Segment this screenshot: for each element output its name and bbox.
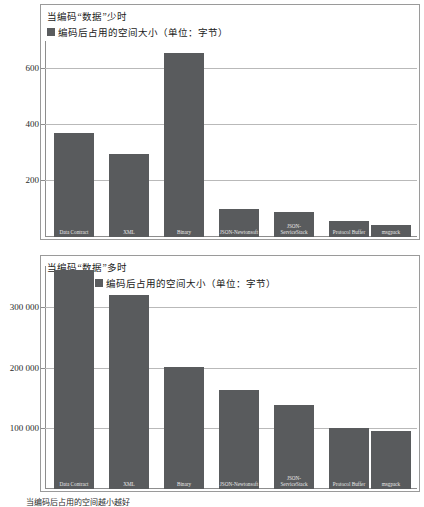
bar-binary-top[interactable]: Binary: [164, 53, 204, 237]
bar-json-newtonsoft-top[interactable]: JSON-Newtonsoft: [219, 209, 259, 237]
bar-data-contract-bottom[interactable]: Data Contract: [54, 270, 94, 489]
bar-data-contract-top[interactable]: Data Contract: [54, 133, 94, 237]
ytick-label-200000-bottom: 200 000: [10, 363, 39, 373]
legend-label-top: 编码后占用的空间大小（单位：字节）: [58, 25, 228, 39]
bar-xml-top[interactable]: XML: [109, 154, 149, 237]
ytick-label-200-top: 200: [26, 175, 40, 185]
bars-layer-bottom: Data Contract XML Binary JSON-Newtonsoft…: [45, 266, 417, 489]
chart-title-top: 当编码“数据”少时: [47, 9, 127, 23]
bar-xml-bottom[interactable]: XML: [109, 295, 149, 489]
legend-swatch-icon: [47, 28, 55, 36]
bar-label-protocol-buffer-bottom: Protocol Buffer: [329, 481, 369, 489]
bar-binary-bottom[interactable]: Binary: [164, 367, 204, 489]
bar-label-data-contract-top: Data Contract: [54, 229, 94, 237]
ytick-label-300000-bottom: 300 000: [10, 302, 39, 312]
plot-area-bottom: 300 000 200 000 100 000 Data Contract XM…: [45, 266, 417, 489]
bar-label-protocol-buffer-top: Protocol Buffer: [329, 229, 369, 237]
bar-json-newtonsoft-bottom[interactable]: JSON-Newtonsoft: [219, 390, 259, 489]
figure-caption: 当编码后占用的空间越小越好: [26, 496, 130, 507]
bars-layer-top: Data Contract XML Binary JSON-Newtonsoft…: [45, 41, 417, 237]
bar-label-json-servicestack-bottom: JSON-ServiceStack: [274, 475, 314, 489]
bar-label-xml-top: XML: [109, 229, 149, 237]
bar-label-msgpack-bottom: msgpack: [371, 481, 411, 489]
ytick-label-400-top: 400: [26, 119, 40, 129]
plot-area-top: 600 400 200 Data Contract XML Binary: [45, 41, 417, 237]
bar-label-json-servicestack-top: JSON-ServiceStack: [274, 223, 314, 237]
bar-msgpack-bottom[interactable]: msgpack: [371, 431, 411, 489]
bar-label-json-newtonsoft-top: JSON-Newtonsoft: [219, 229, 259, 237]
bar-label-binary-bottom: Binary: [164, 481, 204, 489]
bar-label-data-contract-bottom: Data Contract: [54, 481, 94, 489]
chart-small-data: 当编码“数据”少时 编码后占用的空间大小（单位：字节） 600 400 200: [0, 0, 424, 245]
chart-large-data: 当编码“数据”多时 编码后占用的空间大小（单位：字节） 300 000 200 …: [0, 255, 424, 503]
bar-json-servicestack-bottom[interactable]: JSON-ServiceStack: [274, 405, 314, 489]
bar-label-xml-bottom: XML: [109, 481, 149, 489]
ytick-label-100000-bottom: 100 000: [10, 423, 39, 433]
bar-label-json-newtonsoft-bottom: JSON-Newtonsoft: [219, 481, 259, 489]
bar-label-msgpack-top: msgpack: [371, 229, 411, 237]
ytick-label-600-top: 600: [26, 63, 40, 73]
bar-label-binary-top: Binary: [164, 229, 204, 237]
bar-protocol-buffer-top[interactable]: Protocol Buffer: [329, 221, 369, 237]
bar-protocol-buffer-bottom[interactable]: Protocol Buffer: [329, 428, 369, 489]
bar-msgpack-top[interactable]: msgpack: [371, 225, 411, 237]
bar-json-servicestack-top[interactable]: JSON-ServiceStack: [274, 212, 314, 237]
chart-legend-top: 编码后占用的空间大小（单位：字节）: [47, 25, 228, 39]
